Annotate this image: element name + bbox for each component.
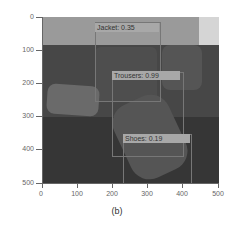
x-tick-label: 500 [212,190,224,197]
y-tick-label: 300 [22,112,34,119]
y-tick-label: 0 [30,13,34,20]
x-axis [42,183,219,184]
y-tick [36,17,42,18]
x-tick-label: 0 [39,190,43,197]
x-tick-label: 100 [71,190,83,197]
y-tick [36,149,42,150]
y-axis [42,17,43,183]
image-panel: Jacket: 0.35 Trousers: 0.99 Shoes: 0.19 [42,17,219,183]
y-tick-label: 500 [22,179,34,186]
x-tick [77,183,78,188]
x-tick [218,183,219,188]
x-tick-label: 200 [106,190,118,197]
pillow [46,83,100,117]
y-tick-label: 400 [22,145,34,152]
figure-caption: (b) [0,206,234,216]
x-tick [112,183,113,188]
x-tick-label: 300 [141,190,153,197]
x-tick [42,183,43,188]
trousers-label: Trousers: 0.99 [112,71,180,80]
x-tick-label: 400 [176,190,188,197]
y-tick [36,50,42,51]
shoes-label: Shoes: 0.19 [123,134,190,143]
x-tick [182,183,183,188]
y-tick-label: 100 [22,46,34,53]
jacket-label: Jacket: 0.35 [95,23,159,32]
x-tick [147,183,148,188]
y-tick-label: 200 [22,79,34,86]
y-tick [36,116,42,117]
y-tick [36,83,42,84]
